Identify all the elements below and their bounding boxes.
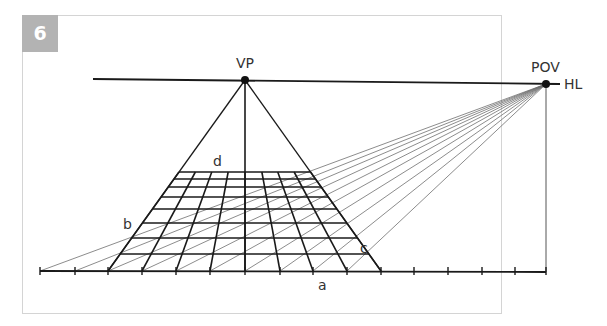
- pov-label: POV: [531, 59, 560, 75]
- vp-label: VP: [236, 55, 254, 71]
- pov-construction-line: [142, 84, 546, 271]
- pov-construction-line: [280, 84, 546, 271]
- point-of-view-dot: [542, 80, 550, 88]
- perspective-grid-diagram: VP POV HL a b c d: [0, 0, 607, 326]
- hl-label: HL: [564, 76, 583, 92]
- label-c: c: [360, 240, 368, 256]
- pov-construction-line: [40, 84, 546, 271]
- pov-construction-line: [245, 84, 546, 271]
- pov-construction-line: [108, 84, 546, 271]
- ground-line: [40, 271, 546, 272]
- label-d: d: [213, 153, 222, 169]
- label-a: a: [318, 277, 327, 293]
- pov-construction-lines: [40, 84, 546, 271]
- pov-construction-line: [75, 84, 546, 271]
- vanishing-point-dot: [241, 76, 249, 84]
- pov-construction-line: [347, 84, 546, 271]
- horizon-line: [93, 79, 560, 84]
- label-b: b: [123, 216, 132, 232]
- pov-construction-line: [313, 84, 546, 271]
- pov-construction-line: [210, 84, 546, 271]
- vp-left-boundary: [108, 80, 245, 271]
